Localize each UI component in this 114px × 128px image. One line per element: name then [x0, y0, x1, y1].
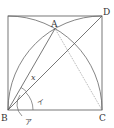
label-d: D: [103, 7, 110, 17]
diagonal-bd: [8, 16, 102, 110]
angle-arc-x: [21, 88, 26, 92]
angle-label-x: x: [31, 73, 36, 82]
label-b: B: [1, 113, 8, 123]
segment-ac-dotted: [55, 29, 102, 110]
angle-arc-i: [26, 92, 33, 110]
diagram-canvas: A B C D x イ ア: [0, 0, 114, 128]
label-a: A: [50, 19, 58, 29]
geometry-figure: A B C D x イ ア: [0, 0, 114, 128]
label-c: C: [99, 113, 106, 123]
segment-ba: [8, 29, 55, 110]
angle-label-i: イ: [37, 98, 44, 106]
angle-label-a: ア: [25, 118, 32, 126]
